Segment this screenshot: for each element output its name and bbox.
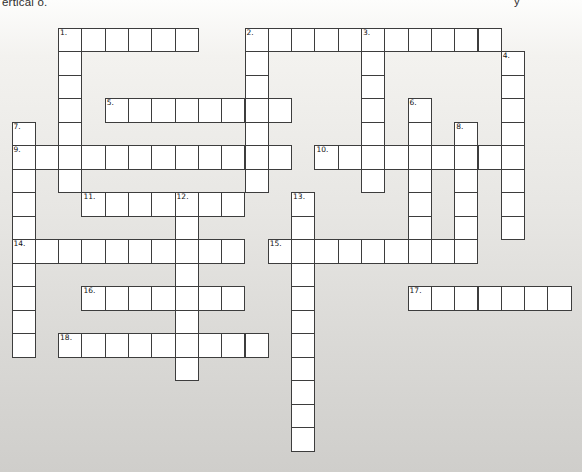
crossword-cell [128, 145, 152, 170]
crossword-cell [221, 192, 245, 217]
clue-number: 3. [363, 29, 370, 38]
crossword-cell: 18. [58, 333, 82, 358]
crossword-cell [501, 169, 525, 194]
crossword-cell [501, 286, 525, 311]
crossword-cell [105, 333, 129, 358]
crossword-cell [175, 310, 199, 335]
crossword-cell [105, 145, 129, 170]
crossword-cell [291, 286, 315, 311]
crossword-cell [128, 192, 152, 217]
crossword-cell [268, 98, 292, 123]
crossword-cell: 1. [58, 28, 82, 53]
crossword-cell [175, 357, 199, 382]
crossword-cell [175, 263, 199, 288]
crossword-cell [128, 239, 152, 264]
crossword-cell: 11. [81, 192, 105, 217]
clue-number: 17. [410, 287, 422, 296]
clue-number: 9. [14, 146, 21, 155]
crossword-cell [361, 122, 385, 147]
crossword-cell: 6. [408, 98, 432, 123]
clue-number: 12. [177, 193, 189, 202]
crossword-cell [198, 192, 222, 217]
crossword-cell [151, 145, 175, 170]
crossword-cell: 2. [245, 28, 269, 53]
crossword-cell [12, 216, 36, 241]
crossword-cell [547, 286, 571, 311]
crossword-cell [221, 145, 245, 170]
crossword-cell [431, 239, 455, 264]
crossword-cell [408, 169, 432, 194]
crossword-cell [221, 333, 245, 358]
crossword-cell [12, 333, 36, 358]
crossword-cell [12, 169, 36, 194]
crossword-cell [58, 122, 82, 147]
crossword-cell [175, 239, 199, 264]
crossword-cell [314, 239, 338, 264]
crossword-cell [501, 75, 525, 100]
crossword-cell [454, 28, 478, 53]
crossword-cell [291, 310, 315, 335]
clue-number: 1. [60, 29, 67, 38]
crossword-cell [291, 357, 315, 382]
crossword-cell [314, 28, 338, 53]
crossword-cell [524, 286, 548, 311]
crossword-cell [501, 192, 525, 217]
crossword-cell [454, 145, 478, 170]
crossword-cell: 10. [314, 145, 338, 170]
crossword-cell [175, 98, 199, 123]
crossword-cell [245, 333, 269, 358]
crossword-cell [105, 192, 129, 217]
crossword-cell [175, 28, 199, 53]
crossword-grid: 1.2.3.4.5.6.7.9.14.8.10.11.12.13.15.16.1… [0, 0, 582, 472]
crossword-cell: 14. [12, 239, 36, 264]
crossword-cell [338, 145, 362, 170]
crossword-cell [431, 28, 455, 53]
crossword-cell [81, 28, 105, 53]
crossword-cell [12, 310, 36, 335]
crossword-cell [12, 263, 36, 288]
crossword-cell [151, 192, 175, 217]
crossword-cell: 3. [361, 28, 385, 53]
crossword-cell [454, 286, 478, 311]
crossword-cell [151, 98, 175, 123]
crossword-cell [58, 169, 82, 194]
crossword-cell [361, 145, 385, 170]
crossword-cell [361, 239, 385, 264]
crossword-cell: 13. [291, 192, 315, 217]
clue-number: 7. [14, 123, 21, 132]
crossword-cell [408, 216, 432, 241]
crossword-cell [128, 333, 152, 358]
crossword-cell [338, 28, 362, 53]
crossword-cell [151, 333, 175, 358]
crossword-cell [361, 75, 385, 100]
crossword-cell [221, 239, 245, 264]
crossword-cell [361, 98, 385, 123]
crossword-cell [245, 98, 269, 123]
crossword-cell [58, 75, 82, 100]
clue-number: 16. [83, 287, 95, 296]
crossword-cell: 8. [454, 122, 478, 147]
crossword-cell [128, 286, 152, 311]
crossword-cell [501, 216, 525, 241]
crossword-cell [58, 239, 82, 264]
crossword-cell [245, 75, 269, 100]
clue-number: 6. [410, 99, 417, 108]
crossword-cell: 4. [501, 51, 525, 76]
crossword-cell: 5. [105, 98, 129, 123]
crossword-cell [408, 145, 432, 170]
crossword-cell [338, 239, 362, 264]
crossword-cell [478, 286, 502, 311]
crossword-cell [175, 333, 199, 358]
crossword-cell [478, 28, 502, 53]
crossword-cell [81, 145, 105, 170]
crossword-cell [151, 239, 175, 264]
crossword-cell [105, 286, 129, 311]
crossword-cell: 16. [81, 286, 105, 311]
crossword-cell [384, 28, 408, 53]
crossword-cell [408, 239, 432, 264]
crossword-cell [221, 98, 245, 123]
crossword-cell [175, 145, 199, 170]
crossword-cell: 17. [408, 286, 432, 311]
crossword-cell [245, 122, 269, 147]
crossword-cell [35, 239, 59, 264]
